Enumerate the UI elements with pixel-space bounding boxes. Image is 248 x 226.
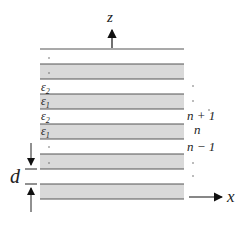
z-axis-label: z xyxy=(106,9,113,25)
dielectric-layers xyxy=(40,64,184,199)
layer-indices: n + 1 n n − 1 xyxy=(187,85,215,177)
layer-band xyxy=(40,94,184,109)
layer-band xyxy=(40,124,184,139)
period-label: d xyxy=(10,165,21,187)
index-n-plus-1: n + 1 xyxy=(187,108,215,123)
period-dimension: d xyxy=(10,143,37,212)
x-axis-label: x xyxy=(226,187,235,206)
index-n-minus-1: n − 1 xyxy=(187,139,215,154)
layer-band xyxy=(40,64,184,79)
epsilon2-label: ε2 xyxy=(41,109,50,125)
x-axis: x xyxy=(189,187,235,206)
permittivity-labels: ε2 ε1 ε2 ε1 xyxy=(41,80,50,140)
left-ellipsis xyxy=(48,57,50,164)
multilayer-diagram: z x ε2 ε1 ε2 ε1 n + 1 n n − 1 d xyxy=(0,0,248,226)
layer-band xyxy=(40,184,184,199)
z-axis: z xyxy=(106,9,113,48)
index-n: n xyxy=(194,122,201,137)
layer-band xyxy=(40,154,184,169)
